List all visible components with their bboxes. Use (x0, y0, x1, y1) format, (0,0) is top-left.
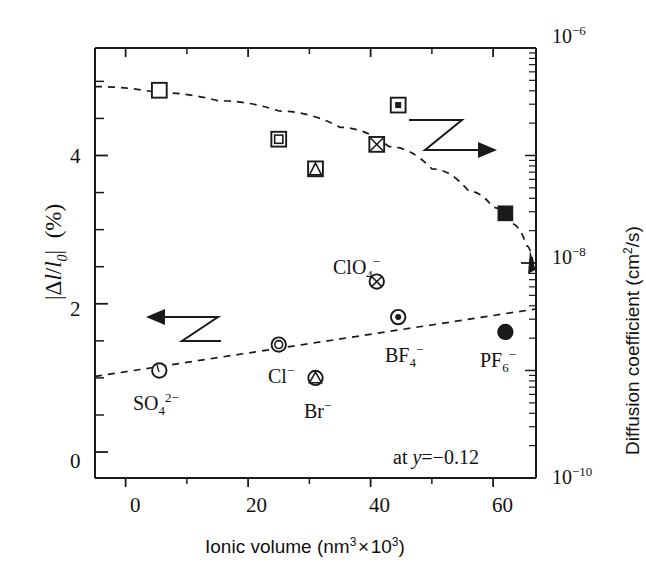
marker-square-Cl (271, 132, 286, 147)
x-tick-label-60: 60 (492, 495, 513, 516)
figure-root: |Δl/l0| (%) Diffusion coefficient (cm2/s… (0, 0, 646, 579)
marker-square-PF6 (498, 206, 512, 220)
ion-label-clo4: ClO4− (333, 255, 380, 281)
scatter-plot-canvas (0, 0, 646, 579)
ion-label-so4: SO42− (133, 391, 179, 417)
marker-circle-SO42 (152, 363, 166, 377)
marker-square-Br (308, 161, 323, 176)
marker-square-ClO4 (369, 137, 384, 152)
x-tick-label-40: 40 (369, 495, 390, 516)
marker-circle-Br (308, 371, 322, 385)
ion-label-pf6: PF6− (480, 348, 516, 374)
marker-circle-PF6 (498, 325, 512, 339)
marker-square-BF4 (391, 98, 406, 113)
left-tick-label-0: 0 (70, 451, 81, 472)
left-axis-pointer-arrow (146, 309, 221, 341)
right-axis-pointer-arrow (409, 120, 497, 158)
x-tick-label-0: 0 (130, 495, 141, 516)
right-tick-label-1e-8: 10−8 (552, 245, 586, 267)
condition-annotation: at y=−0.12 (393, 447, 479, 467)
ion-label-bf4: BF4− (385, 343, 423, 369)
ion-label-cl: Cl− (268, 364, 294, 386)
x-axis-title: Ionic volume (nm3 × 103) (205, 536, 405, 556)
left-y-axis-title: |Δl/l0| (%) (42, 204, 70, 300)
marker-square-SO42 (152, 83, 167, 98)
right-tick-label-1e-10: 10−10 (552, 465, 592, 487)
left-tick-label-4: 4 (70, 146, 81, 167)
marker-circle-BF4 (391, 310, 405, 324)
left-tick-label-2: 2 (70, 299, 81, 320)
x-tick-label-20: 20 (246, 495, 267, 516)
ion-label-br: Br− (304, 399, 331, 421)
marker-circle-Cl (272, 337, 286, 351)
right-tick-label-1e-6: 10−6 (552, 24, 586, 46)
right-y-axis-title: Diffusion coefficient (cm2/s) (622, 226, 642, 455)
